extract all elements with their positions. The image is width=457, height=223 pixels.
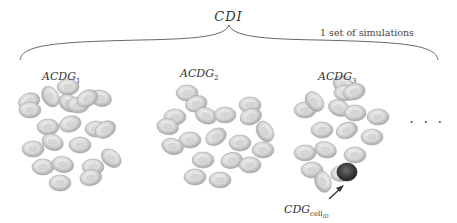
highlighted-cell bbox=[337, 163, 357, 181]
cluster-label-1: ACDG1 bbox=[42, 70, 80, 85]
cell-cluster-2 bbox=[156, 85, 278, 188]
arrow-icon bbox=[329, 185, 344, 199]
ellipsis: · · · bbox=[409, 113, 444, 132]
cluster-label-3: ACDG3 bbox=[318, 70, 356, 85]
simulation-set-note: 1 set of simulations bbox=[320, 27, 414, 38]
highlighted-cell-label: CDGcellID bbox=[284, 203, 329, 220]
cell-cluster-1 bbox=[16, 79, 125, 191]
figure-title: CDI bbox=[0, 9, 457, 24]
cluster-label-2: ACDG2 bbox=[180, 67, 218, 82]
